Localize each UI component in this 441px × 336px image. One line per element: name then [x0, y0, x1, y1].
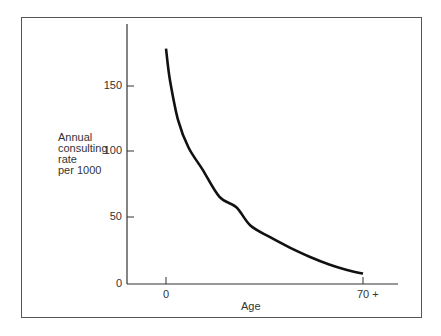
- x-axis-label: Age: [241, 300, 261, 312]
- y-tick-label-150: 150: [92, 79, 122, 91]
- x-tick-label-0: 0: [163, 288, 169, 300]
- x-tick-label-70plus: 70 +: [357, 288, 379, 300]
- y-axis-label: Annual consulting rate per 1000: [58, 132, 108, 176]
- y-axis-label-line-4: per 1000: [58, 165, 108, 176]
- data-curve: [166, 49, 363, 274]
- y-tick-label-0: 0: [92, 277, 122, 289]
- y-tick-label-50: 50: [92, 210, 122, 222]
